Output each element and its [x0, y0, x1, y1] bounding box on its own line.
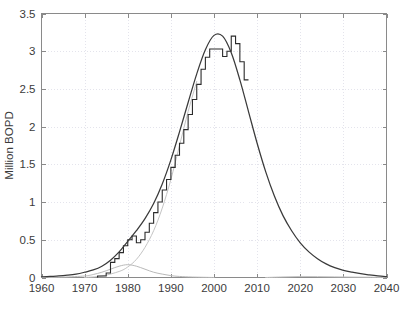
y-tick-label: 1 — [29, 196, 35, 208]
x-tick-label: 2010 — [244, 282, 270, 294]
y-tick-label: 0 — [29, 272, 35, 284]
x-tick-label: 2040 — [374, 282, 400, 294]
series-path — [85, 81, 197, 277]
production-curve-chart: 196019701980199020002010202020302040 00.… — [0, 0, 405, 314]
x-tick-label: 2000 — [201, 282, 227, 294]
x-axis-tick-labels: 196019701980199020002010202020302040 — [29, 282, 400, 294]
chart-figure: 196019701980199020002010202020302040 00.… — [0, 0, 405, 314]
y-tick-label: 3 — [29, 45, 35, 57]
x-tick-label: 1970 — [72, 282, 98, 294]
x-tick-label: 1990 — [158, 282, 184, 294]
plot-box — [42, 14, 387, 278]
y-axis-title: Million BOPD — [3, 111, 15, 179]
x-tick-label: 2020 — [287, 282, 313, 294]
y-tick-label: 0.5 — [20, 234, 36, 246]
axis-frame — [42, 14, 387, 278]
data-series-layer — [42, 34, 387, 278]
y-tick-label: 1.5 — [20, 158, 36, 170]
y-axis-title-text: Million BOPD — [3, 111, 15, 179]
y-tick-label: 3.5 — [20, 8, 36, 20]
y-tick-label: 2 — [29, 121, 35, 133]
y-axis-tick-labels: 00.511.522.533.5 — [20, 8, 36, 284]
grid-layer — [42, 14, 387, 278]
x-tick-label: 2030 — [331, 282, 357, 294]
y-tick-label: 2.5 — [20, 83, 36, 95]
x-tick-label: 1980 — [115, 282, 141, 294]
series-path — [98, 36, 249, 277]
